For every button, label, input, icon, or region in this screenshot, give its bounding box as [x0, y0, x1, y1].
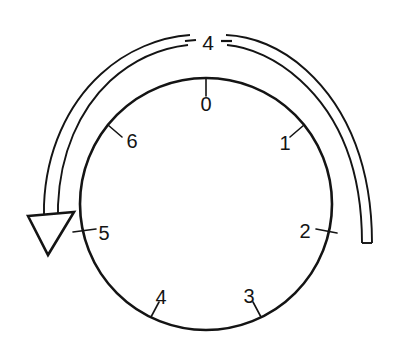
arc-label-value: 4 — [202, 31, 214, 54]
dial-diagram: 4 0 1 2 3 4 5 — [0, 0, 401, 349]
dial-number-0: 0 — [200, 93, 211, 115]
dial-circle — [80, 78, 332, 330]
dial-number-3: 3 — [243, 285, 254, 307]
arc-label-group: 4 — [185, 31, 232, 54]
arc-label-dash-left — [185, 40, 196, 41]
dial-number-4: 4 — [155, 286, 166, 308]
dial-number-1: 1 — [279, 132, 290, 154]
arrowhead-icon — [28, 212, 74, 255]
dial-diagram-svg: 4 0 1 2 3 4 5 — [0, 0, 401, 349]
dial-number-5: 5 — [98, 222, 109, 244]
dial-number-6: 6 — [126, 130, 137, 152]
dial-number-2: 2 — [299, 220, 310, 242]
